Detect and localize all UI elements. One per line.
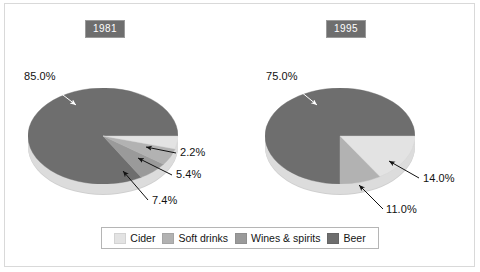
- pie-chart-figure: 1981 1995: [0, 0, 480, 272]
- legend-label-cider: Cider: [130, 232, 155, 244]
- pie-disc-1981: [28, 88, 178, 184]
- legend-label-beer: Beer: [343, 232, 365, 244]
- chart-title-1995: 1995: [327, 21, 365, 37]
- legend-swatch-cider: [114, 233, 126, 244]
- legend-swatch-wines-spirits: [235, 233, 247, 244]
- label-beer-1995: 75.0%: [266, 70, 298, 82]
- legend-item-soft-drinks[interactable]: Soft drinks: [162, 232, 228, 244]
- label-cider-1981: 2.2%: [180, 146, 205, 158]
- legend-item-cider[interactable]: Cider: [114, 232, 155, 244]
- pie-panel-1995: [240, 60, 480, 220]
- label-soft-drinks-1995: 11.0%: [386, 203, 417, 215]
- legend-item-wines-spirits[interactable]: Wines & spirits: [235, 232, 320, 244]
- pie-disc-1995: [265, 88, 415, 184]
- legend-label-soft-drinks: Soft drinks: [178, 232, 228, 244]
- legend-item-beer[interactable]: Beer: [327, 232, 365, 244]
- legend-swatch-soft-drinks: [162, 233, 174, 244]
- pie-1995: [265, 72, 415, 222]
- pie-panel-1981: [0, 60, 240, 220]
- label-beer-1981: 85.0%: [24, 70, 56, 82]
- chart-title-1981: 1981: [86, 21, 124, 37]
- legend-label-wines-spirits: Wines & spirits: [251, 232, 320, 244]
- legend: Cider Soft drinks Wines & spirits Beer: [101, 227, 379, 249]
- legend-swatch-beer: [327, 233, 339, 244]
- label-soft-drinks-1981: 5.4%: [176, 168, 201, 180]
- label-cider-1995: 14.0%: [423, 172, 455, 184]
- label-wines-spirits-1981: 7.4%: [152, 194, 177, 206]
